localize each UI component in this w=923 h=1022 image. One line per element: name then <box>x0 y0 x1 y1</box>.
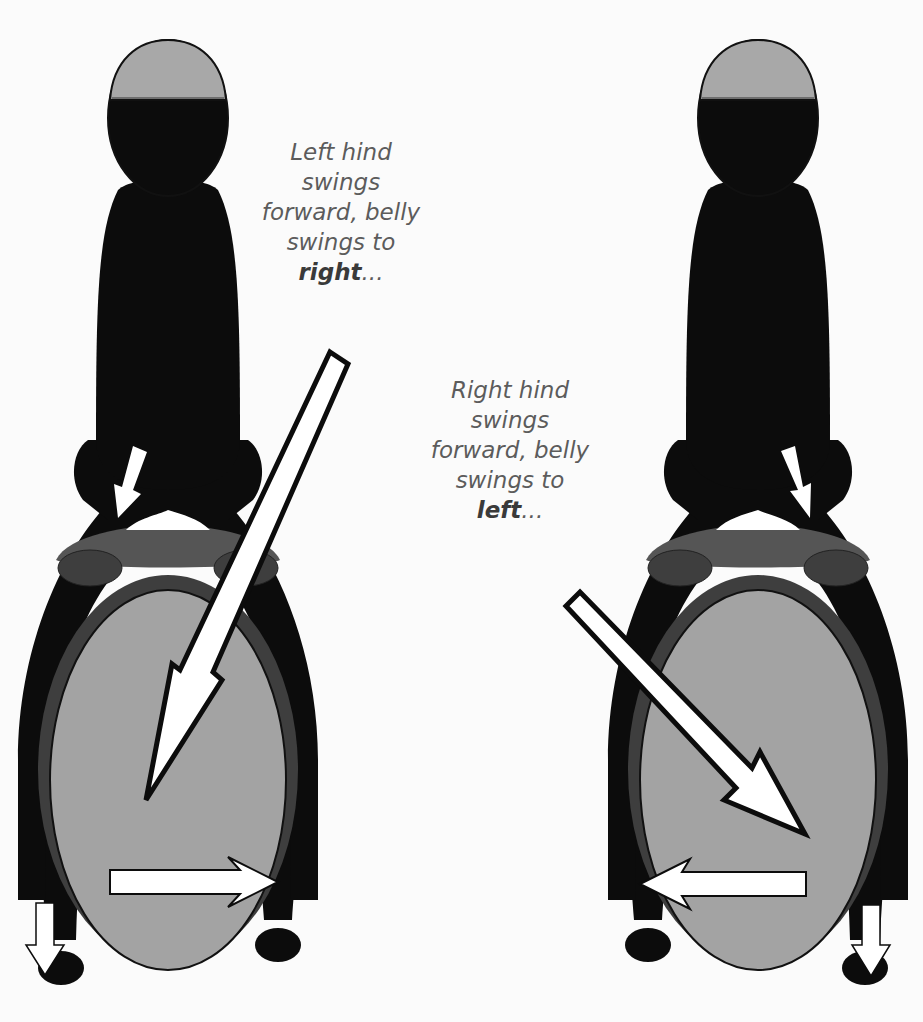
caption-line: swings to <box>400 465 620 495</box>
caption-line: Right hind <box>400 375 620 405</box>
caption-line: swings to <box>236 227 446 257</box>
caption-emphasis-line: right... <box>236 257 446 287</box>
caption-emphasis-line: left... <box>400 495 620 525</box>
caption-line: forward, belly <box>236 197 446 227</box>
caption-left: Left hind swings forward, belly swings t… <box>236 137 446 287</box>
caption-right: Right hind swings forward, belly swings … <box>400 375 620 525</box>
caption-suffix: ... <box>362 259 384 285</box>
horse-rider-figure-right <box>608 40 908 985</box>
caption-line: swings <box>236 167 446 197</box>
caption-line: forward, belly <box>400 435 620 465</box>
caption-suffix: ... <box>521 497 543 523</box>
diagram-canvas: Left hind swings forward, belly swings t… <box>0 0 923 1022</box>
caption-line: Left hind <box>236 137 446 167</box>
caption-emphasis: right <box>299 259 362 285</box>
caption-emphasis: left <box>477 497 521 523</box>
caption-line: swings <box>400 405 620 435</box>
